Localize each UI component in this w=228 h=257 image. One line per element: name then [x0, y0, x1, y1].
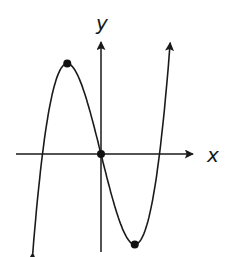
y-axis-label: y [95, 11, 109, 35]
origin-point [97, 150, 105, 158]
x-axis-label: x [206, 143, 219, 167]
cubic-graph: x y [0, 0, 228, 257]
local-minimum-point [131, 240, 139, 248]
local-maximum-point [63, 60, 71, 68]
